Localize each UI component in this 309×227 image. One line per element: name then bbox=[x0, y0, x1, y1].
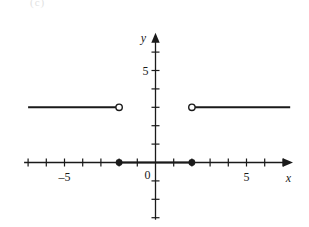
open-endpoint-circle bbox=[116, 104, 122, 110]
open-endpoint-circle bbox=[189, 104, 195, 110]
closed-endpoint-dot bbox=[116, 159, 123, 166]
x-tick-label: 5 bbox=[244, 170, 250, 184]
graph-figure: (c) –5550xy bbox=[0, 0, 309, 227]
x-axis-arrowhead bbox=[283, 158, 293, 166]
x-axis-label: x bbox=[285, 171, 292, 185]
function-graph bbox=[28, 107, 290, 162]
y-tick-label: 5 bbox=[143, 64, 149, 78]
x-tick-label: –5 bbox=[58, 170, 71, 184]
y-axis-arrowhead bbox=[151, 33, 159, 43]
origin-label: 0 bbox=[145, 168, 151, 182]
coordinate-plane: –5550xy bbox=[0, 0, 309, 227]
y-axis-label: y bbox=[140, 31, 147, 45]
closed-endpoint-dot bbox=[189, 159, 196, 166]
